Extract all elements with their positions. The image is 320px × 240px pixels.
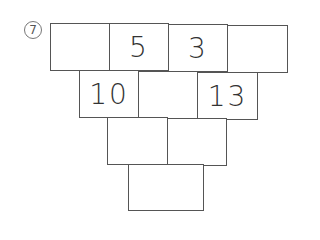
- problem-number: 7: [24, 21, 42, 39]
- pyramid-cell-r1-c1[interactable]: [50, 23, 110, 71]
- pyramid-cell-r2-c2[interactable]: [138, 71, 198, 119]
- pyramid-cell-r1-c4[interactable]: [227, 25, 288, 73]
- pyramid-cell-r2-c1[interactable]: 10: [79, 70, 139, 118]
- pyramid-cell-r2-c3[interactable]: 13: [197, 72, 258, 120]
- pyramid-cell-r1-c3[interactable]: 3: [168, 24, 228, 72]
- pyramid-cell-r3-c1[interactable]: [107, 117, 168, 165]
- pyramid-cell-r1-c2[interactable]: 5: [109, 23, 169, 71]
- pyramid-cell-r4-c1[interactable]: [128, 164, 204, 211]
- pyramid-cell-r3-c2[interactable]: [167, 118, 227, 166]
